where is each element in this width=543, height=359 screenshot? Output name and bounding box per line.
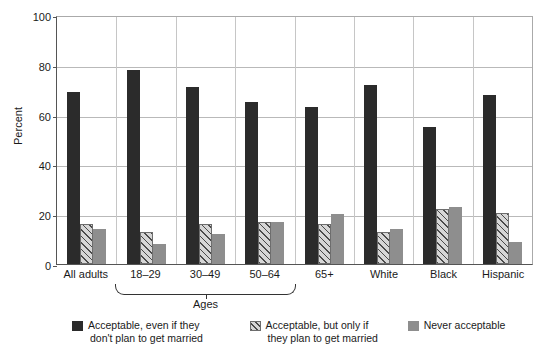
bar-group [413,17,472,264]
bar[interactable] [245,102,258,264]
legend-swatch [250,321,261,331]
x-axis-tick-label: 65+ [295,268,355,280]
bar-group [295,17,354,264]
bar[interactable] [390,229,403,264]
bar[interactable] [377,232,390,264]
legend-label-line2: they plan to get married [266,332,378,345]
legend-label: Acceptable, even if theydon't plan to ge… [88,319,203,346]
bar[interactable] [331,214,344,264]
bar[interactable] [318,224,331,264]
y-axis-tick-label: 0 [45,260,51,272]
bar-group [473,17,532,264]
legend-swatch [408,321,419,331]
legend-item[interactable]: Acceptable, even if theydon't plan to ge… [72,319,250,346]
bar-group [176,17,235,264]
x-axis-tick-label: 50–64 [235,268,295,280]
ages-bracket [115,284,296,295]
legend-label: Acceptable, but only ifthey plan to get … [266,319,378,346]
group-separator [473,17,474,264]
group-separator [235,17,236,264]
bar-group [235,17,294,264]
bar[interactable] [449,207,462,264]
group-separator [295,17,296,264]
bar[interactable] [93,229,106,264]
bar[interactable] [140,232,153,264]
bar[interactable] [67,92,80,264]
legend-label-line2: don't plan to get married [88,332,203,345]
bar[interactable] [80,224,93,264]
group-separator [116,17,117,264]
bar[interactable] [153,244,166,264]
bar[interactable] [305,107,318,264]
bar[interactable] [483,95,496,264]
x-axis-tick-label: 30–49 [175,268,235,280]
group-separator [176,17,177,264]
y-axis-tick-label: 40 [39,160,51,172]
bar[interactable] [509,242,522,264]
plot-area: 020406080100 [56,16,533,265]
legend-item[interactable]: Acceptable, but only ifthey plan to get … [250,319,408,346]
bar[interactable] [364,85,377,264]
x-axis-tick-label: 18–29 [116,268,176,280]
bar[interactable] [258,222,271,264]
x-axis-tick-label: White [354,268,414,280]
bar-group [354,17,413,264]
x-axis-tick-label: Black [414,268,474,280]
bar[interactable] [212,234,225,264]
bar-group [57,17,116,264]
bar[interactable] [127,70,140,264]
y-axis-tick-label: 60 [39,111,51,123]
bar[interactable] [423,127,436,264]
legend-swatch [72,321,83,331]
bar[interactable] [271,222,284,264]
bar[interactable] [436,209,449,264]
y-axis-label: Percent [12,86,24,166]
legend-label: Never acceptable [424,319,506,332]
x-axis-tick-label: All adults [56,268,116,280]
chart-legend: Acceptable, even if theydon't plan to ge… [72,319,532,346]
y-axis-tick-label: 80 [39,61,51,73]
x-axis-tick-labels: All adults18–2930–4950–6465+WhiteBlackHi… [56,268,533,280]
bar[interactable] [186,87,199,264]
ages-bracket-label: Ages [115,298,296,310]
legend-item[interactable]: Never acceptable [408,319,532,346]
chart-container: Percent 020406080100 All adults18–2930–4… [0,0,543,359]
group-separator [354,17,355,264]
bar[interactable] [496,213,509,264]
y-axis-tick-label: 20 [39,210,51,222]
bar-group [116,17,175,264]
group-separator [413,17,414,264]
x-axis-tick-label: Hispanic [473,268,533,280]
bar[interactable] [199,224,212,264]
y-axis-tick-label: 100 [33,11,51,23]
y-axis-tick-mark [53,266,57,267]
